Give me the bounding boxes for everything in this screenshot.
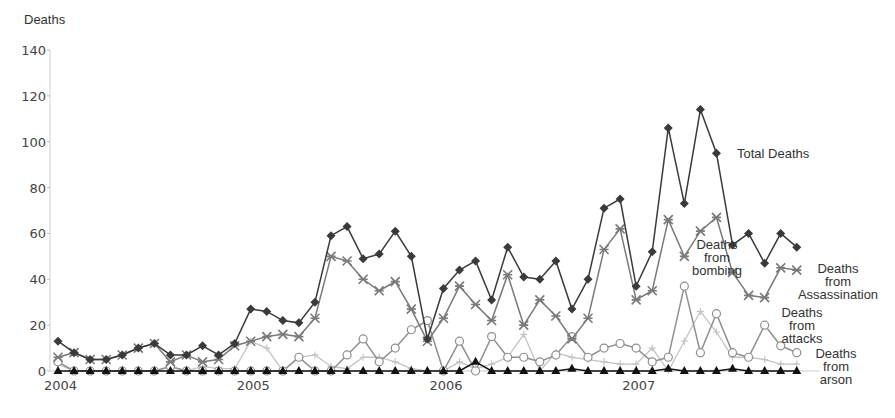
annotation-bombing: bombing xyxy=(692,263,742,278)
line-chart: 0204060801001201402004200520062007Total … xyxy=(0,0,895,418)
y-tick-label: 100 xyxy=(21,135,46,150)
annotation-total-deaths: Total Deaths xyxy=(737,146,810,161)
y-tick-label: 80 xyxy=(29,181,46,196)
x-axis: 2004200520062007 xyxy=(44,378,655,393)
y-tick-label: 120 xyxy=(21,89,46,104)
series-annotations: Total DeathsDeathsfromAssassinationDeath… xyxy=(692,146,878,387)
y-tick-label: 60 xyxy=(29,226,46,241)
y-tick-label: 20 xyxy=(29,318,46,333)
y-tick-label: 40 xyxy=(29,272,46,287)
x-tick-label: 2005 xyxy=(237,378,270,393)
x-tick-label: 2004 xyxy=(44,378,77,393)
y-tick-label: 0 xyxy=(38,364,46,379)
y-tick-label: 140 xyxy=(21,43,46,58)
series-deaths-from-arson xyxy=(54,357,802,374)
annotation-arson: arson xyxy=(820,372,853,387)
annotation-attacks: attacks xyxy=(781,331,823,346)
x-tick-label: 2006 xyxy=(429,378,462,393)
x-tick-label: 2007 xyxy=(622,378,655,393)
annotation-assassination: Assassination xyxy=(798,287,878,302)
series-total-deaths xyxy=(54,105,802,364)
